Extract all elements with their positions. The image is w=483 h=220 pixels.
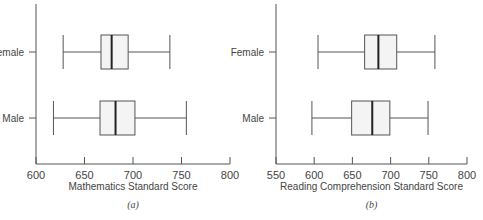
- box-male: Male: [2, 101, 186, 135]
- x-tick-label: 700: [381, 169, 399, 181]
- boxplot-panel-a: 600650700750800FemaleMaleMathematics Sta…: [0, 4, 239, 211]
- chart-canvas: 600650700750800FemaleMaleMathematics Sta…: [0, 0, 483, 220]
- x-tick-label: 600: [305, 169, 323, 181]
- x-tick-label: 700: [124, 169, 142, 181]
- category-label: Female: [0, 47, 24, 58]
- category-label: Female: [231, 47, 265, 58]
- x-tick-label: 600: [27, 169, 45, 181]
- x-tick-label: 650: [75, 169, 93, 181]
- iqr-box: [101, 35, 128, 69]
- x-tick-label: 800: [221, 169, 239, 181]
- category-label: Male: [2, 113, 24, 124]
- x-tick-label: 750: [420, 169, 438, 181]
- category-label: Male: [242, 113, 264, 124]
- box-male: Male: [242, 101, 428, 135]
- x-tick-label: 650: [343, 169, 361, 181]
- x-tick-label: 750: [172, 169, 190, 181]
- panel-caption: (b): [366, 199, 378, 211]
- box-female: Female: [231, 35, 435, 69]
- iqr-box: [352, 101, 390, 135]
- iqr-box: [365, 35, 397, 69]
- boxplot-panel-b: 550600650700750800FemaleMaleReading Comp…: [231, 4, 477, 211]
- iqr-box: [100, 101, 135, 135]
- box-female: Female: [0, 35, 170, 69]
- x-axis-title: Mathematics Standard Score: [69, 181, 198, 192]
- x-tick-label: 550: [267, 169, 285, 181]
- panel-caption: (a): [127, 199, 139, 211]
- x-tick-label: 800: [458, 169, 476, 181]
- x-axis-title: Reading Comprehension Standard Score: [280, 181, 463, 192]
